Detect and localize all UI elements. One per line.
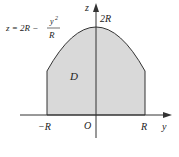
top-tick-label: 2R [100,13,111,24]
y-axis-label: y [161,121,167,132]
region-diagram: z 2R D −R O R y z = 2R − y 2 R [0,0,179,157]
equation-denominator: R [48,30,55,40]
z-axis-label: z [84,2,89,13]
equation-lhs: z = 2R − [5,23,38,33]
equation-numerator: y [49,17,54,26]
region-label: D [69,70,78,82]
z-axis-arrowhead-icon [93,3,99,12]
y-axis-arrowhead-icon [163,112,172,118]
equation-exponent: 2 [55,15,58,21]
neg-r-label: −R [38,121,51,132]
origin-label: O [84,120,91,131]
pos-r-label: R [140,121,147,132]
